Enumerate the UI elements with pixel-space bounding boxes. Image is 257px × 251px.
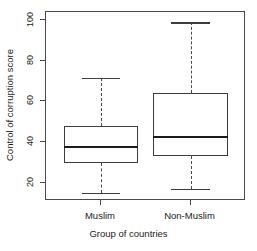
upper-whisker — [191, 22, 192, 93]
y-axis-title: Control of corruption score — [4, 20, 15, 190]
x-tick-label: Non-Muslim — [140, 210, 240, 221]
upper-whisker-cap — [171, 22, 210, 23]
x-tick-label: Muslim — [50, 210, 150, 221]
upper-whisker-cap — [82, 78, 120, 79]
plot-area — [45, 11, 245, 200]
upper-whisker — [101, 78, 102, 126]
x-axis-title: Group of countries — [0, 228, 257, 239]
median-line — [64, 146, 138, 148]
median-line — [153, 136, 228, 138]
x-tick-mark — [100, 200, 101, 205]
lower-whisker-cap — [171, 189, 210, 190]
boxplot-figure: Control of corruption score 20406080100 … — [0, 0, 257, 251]
y-tick-label: 80 — [25, 48, 36, 72]
x-tick-mark — [190, 200, 191, 205]
y-tick-label: 100 — [25, 7, 36, 31]
box-iqr — [64, 126, 138, 164]
box-iqr — [153, 93, 228, 156]
y-tick-label: 40 — [25, 129, 36, 153]
y-tick-label: 20 — [25, 170, 36, 194]
lower-whisker-cap — [82, 193, 120, 194]
lower-whisker — [101, 163, 102, 192]
y-tick-label: 60 — [25, 88, 36, 112]
lower-whisker — [191, 156, 192, 189]
